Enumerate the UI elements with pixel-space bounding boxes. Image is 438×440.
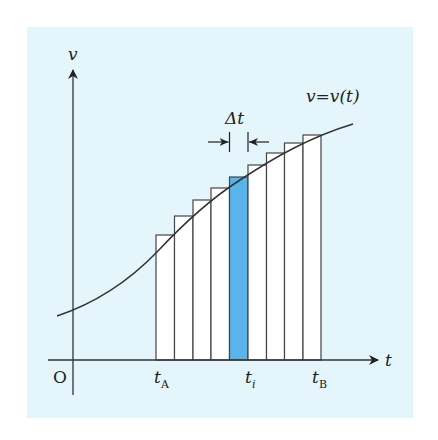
delta-t-marker [208, 132, 269, 152]
bar-6 [248, 165, 267, 360]
bar-8 [285, 143, 304, 360]
v-axis-label: v [68, 44, 78, 64]
rectangles [156, 135, 321, 360]
t-axis-label: t [385, 350, 392, 370]
tick-label-tB: t B [312, 367, 327, 391]
curve-label: v=v(t) [306, 86, 360, 106]
origin-label: O [53, 367, 67, 387]
svg-text:t: t [154, 367, 161, 387]
svg-text:i: i [252, 378, 256, 391]
bar-7 [267, 153, 285, 360]
bar-4 [211, 188, 230, 360]
svg-text:A: A [160, 378, 170, 391]
delta-t-label: Δt [224, 108, 244, 128]
bar-2 [175, 216, 194, 360]
svg-text:t: t [312, 367, 319, 387]
bar-1 [156, 235, 175, 360]
tick-label-ti: t i [245, 367, 256, 391]
svg-text:B: B [319, 378, 327, 391]
bar-3 [193, 200, 211, 360]
svg-text:t: t [245, 367, 252, 387]
tick-label-tA: t A [154, 367, 170, 391]
bar-highlighted [230, 177, 249, 360]
bar-9 [303, 135, 321, 360]
riemann-sum-diagram: v t O v=v(t) Δt t A t i t B [0, 0, 438, 440]
